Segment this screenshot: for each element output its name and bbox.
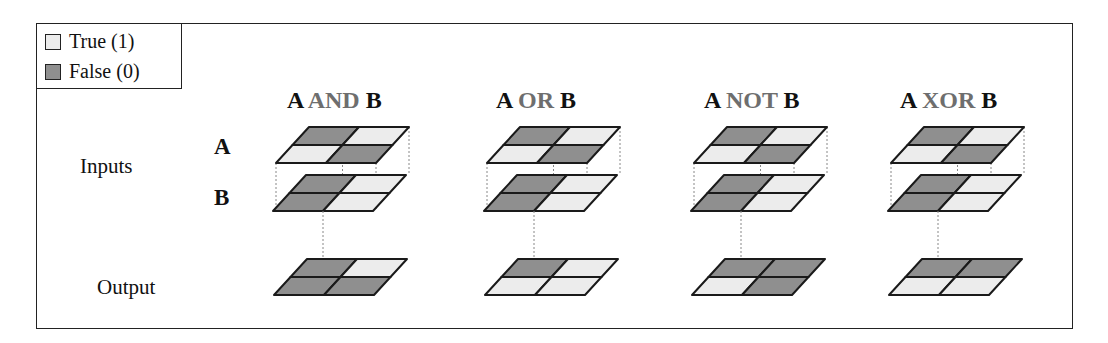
logic-plates-diagram bbox=[0, 0, 1108, 343]
